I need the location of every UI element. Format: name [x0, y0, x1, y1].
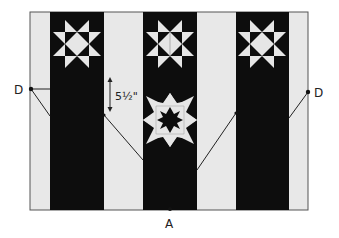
label-a: A: [165, 217, 174, 231]
quilt-diagram: D D A 5½": [0, 0, 339, 238]
measurement-label: 5½": [115, 90, 138, 103]
label-d-left: D: [14, 83, 23, 97]
point-right-strip-edge: [234, 111, 237, 114]
point-d-right: [306, 90, 310, 94]
star-lower-middle: [143, 93, 197, 147]
label-d-right: D: [314, 86, 323, 100]
point-d-left: [29, 87, 33, 91]
point-left-strip-edge: [102, 113, 105, 116]
point-a: [168, 207, 172, 211]
